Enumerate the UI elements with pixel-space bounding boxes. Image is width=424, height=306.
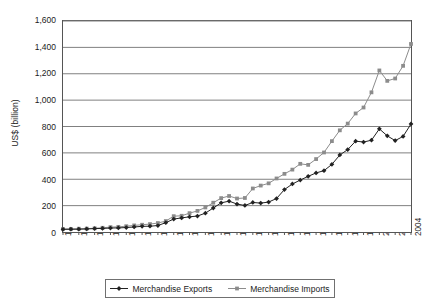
y-axis-tick-label: 200: [0, 202, 56, 211]
data-point: [370, 90, 374, 94]
data-point: [338, 128, 342, 132]
data-point: [195, 214, 200, 219]
data-point: [409, 42, 413, 46]
data-point: [306, 174, 311, 179]
data-point: [314, 157, 318, 161]
x-axis-tick-label: 2004: [415, 206, 423, 236]
data-series-layer: [63, 21, 411, 232]
y-axis-tick-label: 1,600: [0, 16, 56, 25]
data-point: [290, 168, 294, 172]
y-axis-tick-label: 0: [0, 229, 56, 238]
data-point: [227, 199, 232, 204]
data-point: [298, 178, 303, 183]
diamond-marker-icon: [110, 284, 128, 293]
data-point: [250, 200, 255, 205]
data-point: [314, 171, 319, 176]
series-line: [63, 124, 411, 229]
data-point: [361, 140, 366, 145]
data-point: [346, 122, 350, 126]
data-point: [322, 151, 326, 155]
chart-figure: US$ (billion) 02004006008001,0001,2001,4…: [0, 0, 424, 306]
data-point: [259, 184, 263, 188]
data-point: [354, 112, 358, 116]
data-point: [385, 79, 389, 83]
data-point: [409, 122, 414, 127]
data-point: [235, 197, 239, 201]
y-axis-tick-label: 800: [0, 123, 56, 132]
data-point: [401, 134, 406, 139]
y-axis-tick-label: 1,200: [0, 69, 56, 78]
data-point: [362, 106, 366, 110]
y-axis-tick-label: 1,400: [0, 43, 56, 52]
y-axis-tick-label: 1,000: [0, 96, 56, 105]
data-point: [393, 77, 397, 81]
data-point: [187, 214, 192, 219]
data-point: [275, 177, 279, 181]
square-marker-icon: [228, 284, 246, 293]
legend-entry-merchandise-imports[interactable]: Merchandise Imports: [228, 284, 329, 294]
data-point: [243, 203, 248, 208]
data-point: [283, 172, 287, 176]
data-point: [196, 209, 200, 213]
data-point: [298, 162, 302, 166]
y-axis-tick-label: 400: [0, 176, 56, 185]
series-line: [63, 44, 411, 229]
chart-legend: Merchandise ExportsMerchandise Imports: [105, 279, 335, 298]
data-point: [267, 181, 271, 185]
data-point: [401, 64, 405, 68]
legend-entry-merchandise-exports[interactable]: Merchandise Exports: [110, 284, 212, 294]
y-axis-tick-label: 600: [0, 149, 56, 158]
data-point: [377, 69, 381, 73]
data-point: [306, 163, 310, 167]
plot-area: [62, 20, 412, 233]
data-point: [235, 202, 240, 207]
data-point: [219, 196, 223, 200]
data-point: [117, 286, 122, 291]
data-point: [243, 196, 247, 200]
legend-label: Merchandise Imports: [250, 284, 329, 294]
data-point: [251, 187, 255, 191]
data-point: [330, 139, 334, 143]
series-merchandise-exports: [61, 122, 414, 232]
data-point: [266, 200, 271, 205]
data-point: [235, 287, 239, 291]
data-point: [227, 194, 231, 198]
data-point: [258, 201, 263, 206]
data-point: [393, 138, 398, 143]
data-point: [203, 206, 207, 210]
legend-label: Merchandise Exports: [132, 284, 212, 294]
data-point: [211, 201, 215, 205]
